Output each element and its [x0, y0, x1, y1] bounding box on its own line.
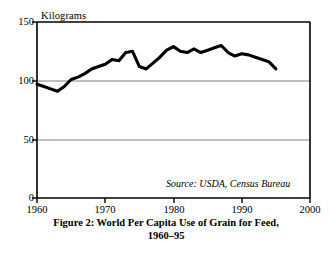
- y-tick-label-150: 150: [8, 16, 34, 27]
- x-tick-label-1970: 1970: [85, 204, 125, 215]
- y-tick-label-100: 100: [8, 75, 34, 86]
- y-tick-label-0: 0: [8, 192, 34, 203]
- gridlines: [37, 81, 310, 140]
- figure-caption: Figure 2: World Per Capita Use of Grain …: [0, 216, 332, 242]
- data-series-line: [37, 45, 276, 91]
- y-tick-label-50: 50: [8, 134, 34, 145]
- x-tick-label-2000: 2000: [290, 204, 330, 215]
- x-tick-label-1990: 1990: [222, 204, 262, 215]
- caption-line-1: Figure 2: World Per Capita Use of Grain …: [0, 216, 332, 229]
- x-tick-label-1960: 1960: [17, 204, 57, 215]
- caption-line-2: 1960–95: [0, 229, 332, 242]
- x-tick-label-1980: 1980: [154, 204, 194, 215]
- figure-container: Kilograms 150 100 50 0: [0, 0, 332, 255]
- source-note: Source: USDA, Census Bureau: [166, 178, 290, 189]
